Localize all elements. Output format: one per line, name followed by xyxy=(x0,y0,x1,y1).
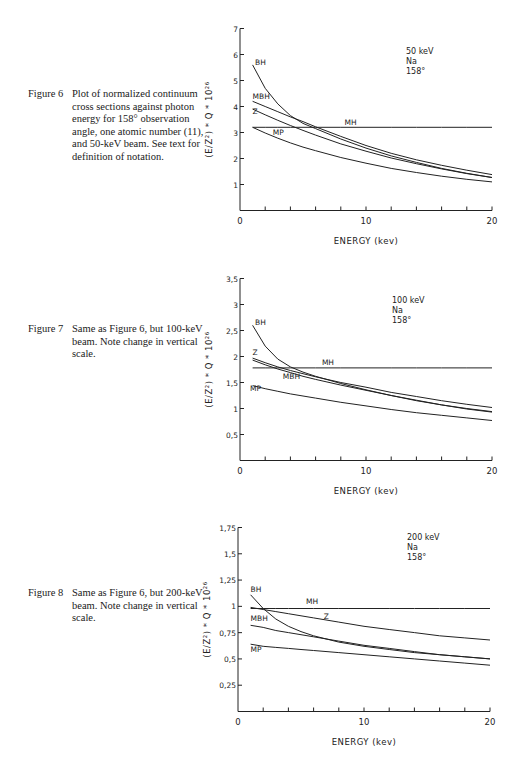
curve-label-mh: MH xyxy=(306,597,318,606)
y-axis-label: (E/Z²) * Q * 10²⁶ xyxy=(202,581,212,657)
x-tick-label: 20 xyxy=(487,466,498,476)
chart-annotation: 50 keVNa158° xyxy=(406,47,434,76)
curve-label-z: Z xyxy=(253,107,258,116)
y-tick-label: 2,5 xyxy=(226,327,238,336)
x-tick-label: 10 xyxy=(361,216,372,226)
curve-bh xyxy=(253,65,492,178)
curve-label-mbh: MBH xyxy=(251,614,268,623)
curve-label-mp: MP xyxy=(251,645,262,654)
curve-label-bh: BH xyxy=(255,318,266,327)
y-tick-label: 0,75 xyxy=(219,629,236,638)
y-tick-label: 0,25 xyxy=(219,681,236,690)
y-axis-label: (E/Z²) * Q * 10²⁶ xyxy=(204,81,214,157)
figure-6-chart: 010201234567ENERGY (kev)(E/Z²) * Q * 10²… xyxy=(0,0,526,260)
y-tick-label: 7 xyxy=(233,25,238,34)
x-axis-label: ENERGY (kev) xyxy=(334,236,399,246)
curve-label-z: Z xyxy=(324,612,329,621)
axes: 010200,250,50,7511,251,51,75ENERGY (kev)… xyxy=(202,524,495,747)
y-tick-label: 2 xyxy=(233,155,238,164)
y-tick-label: 1,5 xyxy=(226,379,238,388)
curve-z xyxy=(251,607,490,640)
figure-7: Figure 7 Same as Figure 6, but 100-keV b… xyxy=(0,260,526,510)
annotation-line: 200 keV xyxy=(407,533,440,542)
y-tick-label: 1 xyxy=(233,181,238,190)
x-tick-label: 10 xyxy=(359,717,370,727)
x-axis-label: ENERGY (kev) xyxy=(334,486,399,496)
figure-8: Figure 8 Same as Figure 6, but 200-keV b… xyxy=(0,510,526,770)
x-tick-label: 0 xyxy=(237,216,242,226)
curve-label-bh: BH xyxy=(251,585,262,594)
y-tick-label: 6 xyxy=(233,51,238,60)
curve-mbh xyxy=(251,625,490,659)
y-tick-label: 1,5 xyxy=(224,550,236,559)
curve-z xyxy=(253,109,492,177)
y-tick-label: 3 xyxy=(233,301,238,310)
y-axis-label: (E/Z²) * Q * 10²⁶ xyxy=(204,331,214,407)
y-tick-label: 1 xyxy=(231,602,236,611)
y-tick-label: 1 xyxy=(233,405,238,414)
curve-bh xyxy=(253,325,492,412)
y-tick-label: 3 xyxy=(233,129,238,138)
y-tick-label: 0,5 xyxy=(224,655,236,664)
x-axis-label: ENERGY (kev) xyxy=(332,737,397,747)
y-tick-label: 4 xyxy=(233,103,238,112)
curve-label-mp: MP xyxy=(250,384,261,393)
figure-8-chart: 010200,250,50,7511,251,51,75ENERGY (kev)… xyxy=(0,510,526,770)
curve-label-bh: BH xyxy=(255,58,266,67)
annotation-line: Na xyxy=(407,543,418,552)
figure-6: Figure 6 Plot of normalized continuum cr… xyxy=(0,0,526,260)
x-tick-label: 20 xyxy=(487,216,498,226)
x-tick-label: 20 xyxy=(485,717,496,727)
y-tick-label: 2 xyxy=(233,353,238,362)
annotation-line: Na xyxy=(392,306,403,315)
chart-annotation: 100 keVNa158° xyxy=(392,296,425,325)
annotation-line: 158° xyxy=(392,316,411,325)
curve-mbh xyxy=(253,101,492,174)
y-tick-label: 5 xyxy=(233,77,238,86)
curve-label-z: Z xyxy=(253,348,258,357)
curve-label-mp: MP xyxy=(273,128,284,137)
curve-label-mbh: MBH xyxy=(253,92,270,101)
y-tick-label: 1,25 xyxy=(219,576,236,585)
y-tick-label: 3,5 xyxy=(226,275,238,284)
y-tick-label: 1,75 xyxy=(219,524,236,533)
axes: 010200,511,522,533,5ENERGY (kev)(E/Z²) *… xyxy=(204,275,497,496)
annotation-line: 100 keV xyxy=(392,296,425,305)
annotation-line: Na xyxy=(406,57,417,66)
annotation-line: 158° xyxy=(406,67,425,76)
annotation-line: 50 keV xyxy=(406,47,434,56)
chart-annotation: 200 keVNa158° xyxy=(407,533,440,562)
y-tick-label: 0,5 xyxy=(226,431,238,440)
curve-label-mh: MH xyxy=(345,118,357,127)
curve-label-mbh: MBH xyxy=(283,372,300,381)
x-tick-label: 0 xyxy=(237,466,242,476)
figure-7-chart: 010200,511,522,533,5ENERGY (kev)(E/Z²) *… xyxy=(0,260,526,510)
x-tick-label: 0 xyxy=(235,717,240,727)
axes: 010201234567ENERGY (kev)(E/Z²) * Q * 10²… xyxy=(204,25,497,246)
annotation-line: 158° xyxy=(407,553,426,562)
x-tick-label: 10 xyxy=(361,466,372,476)
curve-mp xyxy=(253,127,492,182)
curve-label-mh: MH xyxy=(322,358,334,367)
